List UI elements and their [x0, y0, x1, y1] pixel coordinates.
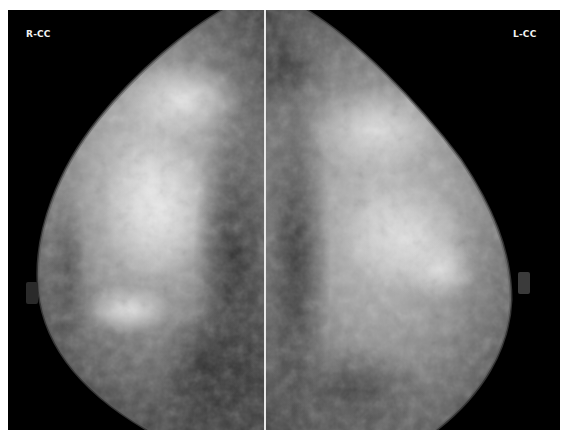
right-breast-image	[8, 10, 264, 430]
nipple-marker	[26, 282, 38, 304]
view-label-l-cc: L-CC	[513, 29, 536, 39]
mammogram-frame: R-CC	[8, 10, 560, 430]
view-label-r-cc: R-CC	[26, 29, 51, 39]
nipple-marker	[518, 272, 530, 294]
right-cc-view: R-CC	[8, 10, 264, 430]
left-breast-image	[266, 10, 560, 430]
left-cc-view: L-CC	[266, 10, 560, 430]
